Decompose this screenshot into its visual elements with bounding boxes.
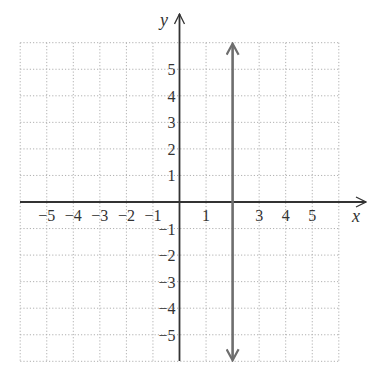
coordinate-plane: xy −5−4−3−2−1134554321−1−2−3−4−5 — [0, 0, 384, 378]
y-tick-label: −1 — [158, 221, 175, 238]
x-tick-label: 1 — [202, 207, 210, 224]
y-axis-label: y — [158, 10, 168, 30]
y-tick-label: 2 — [168, 141, 176, 158]
x-tick-label: −5 — [38, 207, 55, 224]
y-tick-label: −3 — [158, 274, 175, 291]
x-tick-label: 4 — [282, 207, 290, 224]
y-tick-label: −2 — [158, 247, 175, 264]
y-tick-label: 5 — [168, 61, 176, 78]
y-tick-label: 1 — [168, 167, 176, 184]
y-tick-label: 4 — [168, 88, 176, 105]
x-tick-label: 3 — [255, 207, 263, 224]
x-tick-label: 5 — [308, 207, 316, 224]
y-tick-label: 3 — [168, 114, 176, 131]
x-tick-label: −4 — [65, 207, 82, 224]
x-tick-label: −3 — [91, 207, 108, 224]
y-tick-label: −5 — [158, 327, 175, 344]
y-tick-label: −4 — [158, 300, 175, 317]
x-axis-label: x — [351, 206, 360, 226]
x-tick-label: −2 — [118, 207, 135, 224]
